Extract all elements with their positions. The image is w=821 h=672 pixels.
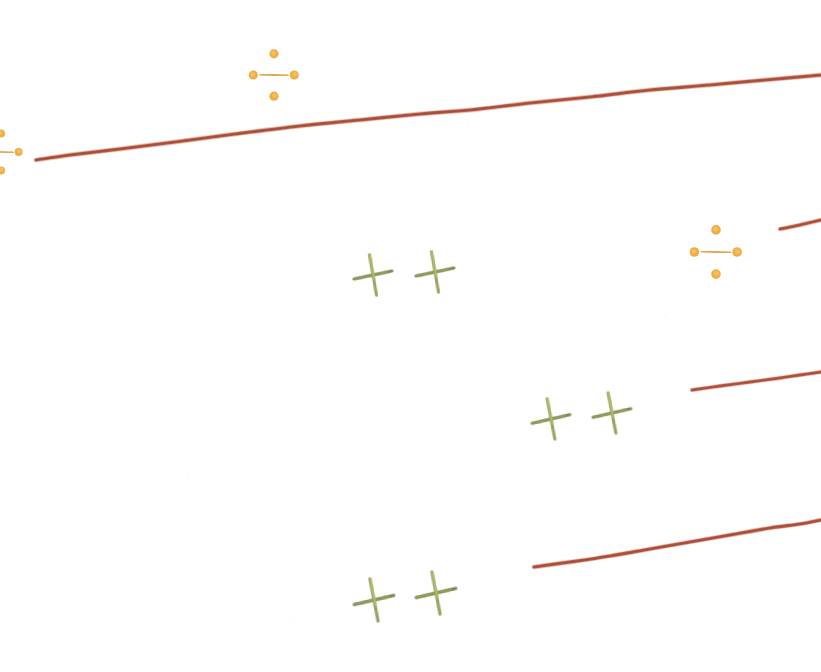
figure-svg bbox=[0, 0, 821, 672]
drawing-canvas bbox=[0, 0, 821, 672]
paper-background bbox=[0, 0, 821, 672]
